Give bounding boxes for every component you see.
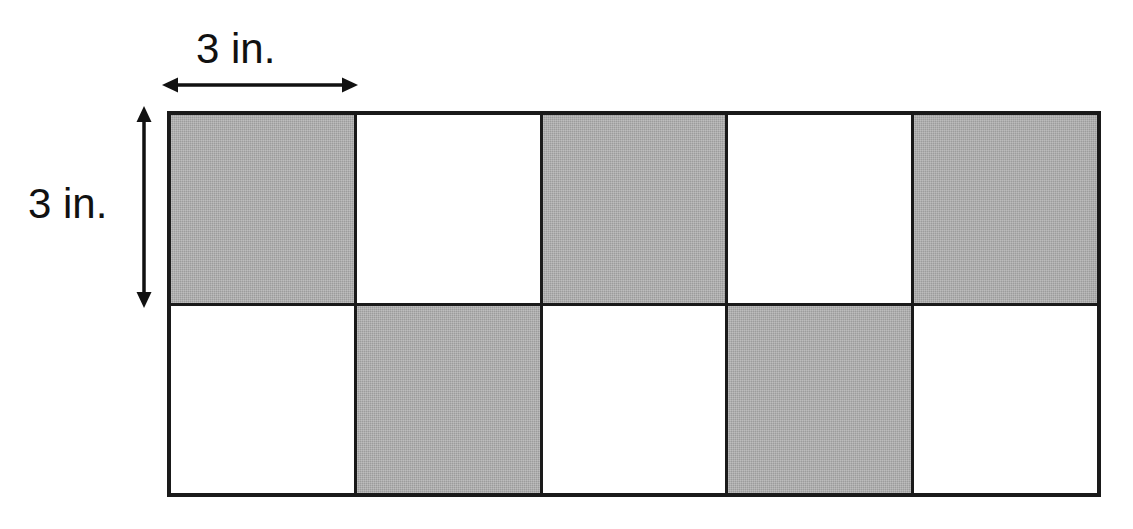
tile-6	[171, 306, 354, 494]
height-dimension-label: 3 in.	[28, 183, 107, 225]
tile-3	[543, 115, 726, 303]
figure-canvas: 3 in. 3 in.	[0, 0, 1133, 529]
width-dimension-arrow	[160, 72, 360, 98]
tile-7	[357, 306, 540, 494]
tile-5	[914, 115, 1097, 303]
width-dimension-label: 3 in.	[196, 28, 275, 70]
height-dimension-arrow	[130, 104, 158, 310]
tile-4	[728, 115, 911, 303]
tile-8	[543, 306, 726, 494]
tile-1	[171, 115, 354, 303]
tile-2	[357, 115, 540, 303]
tile-10	[914, 306, 1097, 494]
tiled-rectangle	[167, 111, 1101, 497]
tile-9	[728, 306, 911, 494]
